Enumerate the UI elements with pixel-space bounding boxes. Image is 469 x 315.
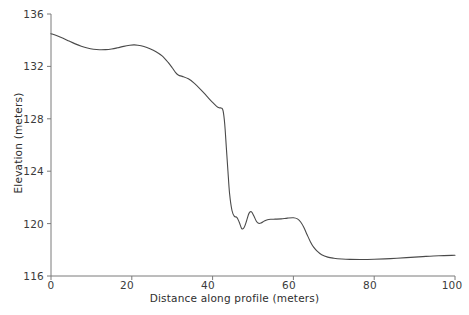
chart-plot-area	[0, 0, 469, 315]
xtick-label-40: 40	[198, 279, 218, 291]
xtick-label-0: 0	[41, 279, 61, 291]
chart-tick-marks	[47, 14, 455, 280]
xtick-label-60: 60	[279, 279, 299, 291]
ytick-label-132: 132	[8, 60, 44, 72]
ytick-label-120: 120	[8, 218, 44, 230]
xtick-label-80: 80	[360, 279, 380, 291]
ytick-label-116: 116	[8, 270, 44, 282]
x-axis-title: Distance along profile (meters)	[0, 292, 469, 304]
elevation-line-series	[51, 34, 455, 260]
chart-axes	[51, 14, 455, 276]
xtick-label-20: 20	[117, 279, 137, 291]
y-axis-title: Elevation (meters)	[12, 73, 24, 213]
xtick-label-100: 100	[440, 279, 464, 291]
elevation-profile-chart: 136 132 128 124 120 116 0 20 40 60 80 10…	[0, 0, 469, 315]
ytick-label-136: 136	[8, 8, 44, 20]
